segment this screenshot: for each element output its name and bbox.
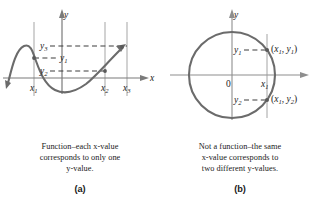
upper-close-paren: )	[294, 44, 297, 55]
y-tick-label-y2: y2	[39, 66, 48, 77]
point-label-lower: (x1, y2)	[271, 94, 297, 105]
x3-sub: 3	[126, 87, 131, 94]
figure-pair-page: y x y3 y1 y2 x1 x2 x3 Functio	[0, 0, 320, 211]
y1-sub: 1	[64, 57, 67, 64]
point-label-upper: (x1, y1)	[271, 44, 297, 55]
caption-b-line-2: x-value corresponds to	[164, 152, 316, 163]
caption-b-line-3: two different y-values.	[164, 163, 316, 174]
point-lower-intersection	[265, 98, 269, 102]
caption-a-line-1: Function–each x-value	[4, 141, 156, 152]
x1-sub: 1	[265, 83, 268, 90]
y3-sub: 3	[43, 45, 48, 52]
x-axis-label: x	[149, 73, 155, 83]
figure-b-canvas: y 0 y1 y2 x1 (x1, y1) (x1, y2)	[160, 0, 320, 135]
y2-sub: 2	[238, 99, 242, 106]
point-x3-y3	[120, 45, 124, 49]
x-axis-arrow	[300, 72, 309, 78]
point-upper-intersection	[265, 48, 269, 52]
panel-figure-b: y 0 y1 y2 x1 (x1, y1) (x1, y2)	[160, 0, 320, 211]
caption-b-line-1: Not a function–the same	[164, 141, 316, 152]
x2-sub: 2	[105, 87, 109, 94]
y-axis-label: y	[233, 10, 239, 20]
y-tick-label-y1: y1	[59, 53, 68, 64]
point-x2-y2	[103, 69, 107, 73]
y-tick-label-y2: y2	[233, 95, 242, 106]
caption-a-line-2: corresponds to only one	[4, 152, 156, 163]
y-axis-label: y	[63, 10, 69, 20]
figure-a-canvas: y x y3 y1 y2 x1 x2 x3	[0, 0, 160, 135]
caption-a-line-3: y-value.	[4, 163, 156, 174]
y1-sub: 1	[238, 49, 241, 56]
y-tick-label-y1: y1	[233, 45, 242, 56]
caption-figure-b: Not a function–the same x-value correspo…	[164, 141, 316, 175]
y-tick-label-y3: y3	[39, 41, 48, 52]
sublabel-a: (a)	[0, 184, 160, 194]
x1-sub: 1	[34, 87, 37, 94]
sublabel-b: (b)	[160, 184, 320, 194]
x-axis-arrow	[140, 75, 149, 81]
x-tick-label-x1: x1	[29, 83, 38, 94]
point-x1-y1	[32, 56, 36, 60]
origin-label: 0	[226, 79, 231, 89]
y2-sub: 2	[44, 70, 48, 77]
caption-figure-a: Function–each x-value corresponds to onl…	[4, 141, 156, 175]
lower-close-paren: )	[294, 94, 297, 105]
x-tick-label-x2: x2	[100, 83, 109, 94]
panel-figure-a: y x y3 y1 y2 x1 x2 x3 Functio	[0, 0, 160, 211]
x-tick-label-x3: x3	[122, 83, 131, 94]
